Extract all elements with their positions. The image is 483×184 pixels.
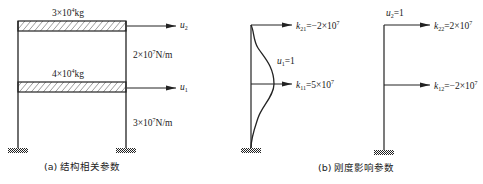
u1-unit-displacement-label: u1=1 (277, 57, 295, 67)
upper-stiffness-label: 2×107N/m (133, 49, 173, 61)
u2-label: u2 (180, 21, 188, 31)
u2-unit-displacement-label: u2=1 (386, 9, 404, 19)
case2-fixed-support-icon (374, 150, 394, 155)
right-fixed-support-icon (116, 148, 136, 153)
case-u2-diagram (374, 25, 430, 155)
k22-label: k22=2×107 (434, 20, 472, 32)
k12-label: k12=−2×107 (434, 80, 478, 92)
caption-b: (b) 刚度影响参数 (318, 160, 394, 174)
caption-a: (a) 结构相关参数 (44, 159, 120, 173)
case1-deflected-shape (251, 25, 274, 148)
mid-mass-label: 4×104kg (52, 68, 84, 80)
case1-fixed-support-icon (241, 148, 261, 153)
left-fixed-support-icon (8, 148, 28, 153)
middle-beam (18, 82, 126, 92)
u1-label: u1 (180, 83, 188, 93)
top-beam (18, 21, 126, 31)
lower-stiffness-label: 3×107N/m (133, 117, 173, 129)
k11-label: k11=5×107 (296, 79, 334, 91)
diagram-canvas (0, 0, 483, 184)
top-mass-label: 3×104kg (52, 7, 84, 19)
k21-label: k21=−2×107 (296, 20, 340, 32)
case-u1-diagram (241, 25, 292, 153)
frame-structure (8, 21, 176, 153)
